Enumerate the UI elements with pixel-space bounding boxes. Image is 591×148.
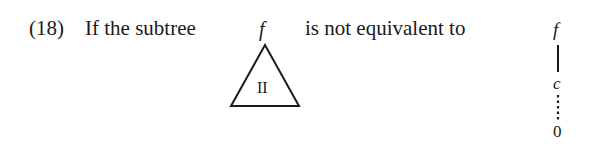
chain-bottom-label: 0: [553, 123, 562, 140]
chain-edges: [0, 0, 591, 148]
chain-middle-label: c: [553, 75, 561, 92]
